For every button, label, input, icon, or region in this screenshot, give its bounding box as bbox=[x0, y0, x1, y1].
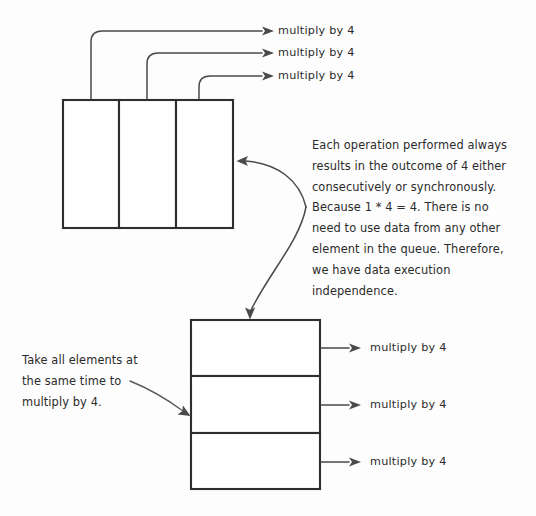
bottom-operation-label-2: multiply by 4 bbox=[370, 399, 447, 410]
bottom-operation-label-3: multiply by 4 bbox=[370, 456, 447, 467]
top-connector-3 bbox=[199, 76, 262, 99]
left-instruction-note: Take all elements atthe same time tomult… bbox=[22, 350, 212, 413]
top-queue-cell-1[interactable] bbox=[63, 100, 119, 228]
top-connector-1 bbox=[91, 31, 262, 99]
explanation-arrowhead-lower bbox=[245, 307, 255, 319]
top-operation-label-3: multiply by 4 bbox=[278, 70, 355, 81]
bottom-arrowhead-2 bbox=[349, 401, 361, 410]
top-operation-label-2: multiply by 4 bbox=[278, 47, 355, 58]
top-queue-cell-2[interactable] bbox=[119, 100, 176, 228]
top-operation-label-1: multiply by 4 bbox=[278, 25, 355, 36]
left-note-line-2: the same time to bbox=[22, 374, 121, 388]
top-arrowhead-3 bbox=[262, 72, 274, 81]
bottom-operation-label-1: multiply by 4 bbox=[370, 342, 447, 353]
left-note-line-1: Take all elements at bbox=[22, 353, 138, 367]
right-note-line-4: Because 1 * 4 = 4. There is no bbox=[312, 200, 489, 214]
top-connectors-group bbox=[91, 27, 274, 100]
bottom-arrowhead-3 bbox=[349, 458, 361, 467]
diagram-canvas: multiply by 4 multiply by 4 multiply by … bbox=[0, 0, 536, 516]
top-arrowhead-1 bbox=[262, 27, 274, 36]
top-queue-cell-3[interactable] bbox=[176, 100, 233, 228]
right-note-line-7: we have data execution bbox=[312, 263, 451, 277]
right-note-line-1: Each operation performed always bbox=[312, 138, 507, 152]
explanation-curve-upper bbox=[245, 161, 306, 207]
bottom-connectors-group bbox=[321, 344, 361, 467]
right-note-line-5: need to use data from any other bbox=[312, 221, 500, 235]
left-note-line-3: multiply by 4. bbox=[22, 395, 102, 409]
right-explanation-note: Each operation performed alwaysresults i… bbox=[312, 135, 532, 301]
top-arrowhead-2 bbox=[262, 49, 274, 58]
explanation-curve-lower bbox=[251, 207, 306, 310]
right-note-line-8: independence. bbox=[312, 284, 398, 298]
explanation-curve-group bbox=[237, 156, 307, 320]
right-note-line-6: element in the queue. Therefore, bbox=[312, 242, 504, 256]
top-queue-group bbox=[63, 100, 233, 228]
bottom-arrowhead-1 bbox=[349, 344, 361, 353]
bottom-queue-cell-3[interactable] bbox=[191, 433, 320, 489]
right-note-line-2: results in the outcome of 4 either bbox=[312, 159, 506, 173]
right-note-line-3: consecutively or synchronously. bbox=[312, 180, 496, 194]
